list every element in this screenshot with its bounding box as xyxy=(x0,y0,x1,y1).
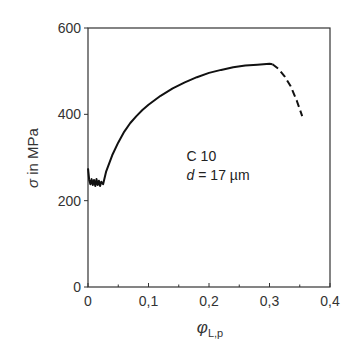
x-tick-label: 0,1 xyxy=(139,293,159,309)
x-tick-label: 0,2 xyxy=(199,293,219,309)
annotations: C 10d = 17 µm xyxy=(187,148,250,183)
y-tick-label: 400 xyxy=(58,106,82,122)
y-tick-label: 0 xyxy=(73,279,81,295)
y-axis-label: σ in MPa xyxy=(24,127,41,188)
axis-tick-labels: 00,10,20,30,40200400600 xyxy=(58,20,340,309)
y-tick-label: 200 xyxy=(58,193,82,209)
grain-size-label: d = 17 µm xyxy=(187,167,250,183)
x-tick-label: 0 xyxy=(84,293,92,309)
y-tick-label: 600 xyxy=(58,20,82,36)
dashed-curve xyxy=(273,64,303,116)
x-axis-label: φL,p xyxy=(197,318,223,339)
stress-strain-chart: 00,10,20,30,40200400600 C 10d = 17 µm σ … xyxy=(0,0,359,353)
x-tick-label: 0,4 xyxy=(320,293,340,309)
x-tick-label: 0,3 xyxy=(260,293,280,309)
material-label: C 10 xyxy=(187,148,217,164)
